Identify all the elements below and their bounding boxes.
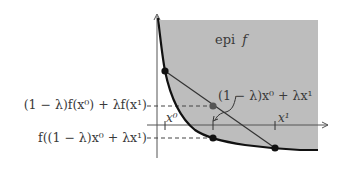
left-label-lower: f((1 − λ)x⁰ + λx¹) [38,130,147,145]
point-f-mid [209,134,216,141]
x1-label: x¹ [278,111,290,125]
point-f-x1 [271,144,278,151]
chord-point-label: (1 − λ)x⁰ + λx¹ [218,88,313,103]
epigraph-label: epi f [215,32,249,47]
left-label-upper: (1 − λ)f(x⁰) + λf(x¹) [24,97,147,112]
point-chord-mid [209,102,216,109]
x0-label: x⁰ [166,111,178,125]
convexity-diagram: epi f (1 − λ)x⁰ + λx¹ (1 − λ)f(x⁰) + λf(… [0,0,345,170]
point-f-x0 [161,67,168,74]
